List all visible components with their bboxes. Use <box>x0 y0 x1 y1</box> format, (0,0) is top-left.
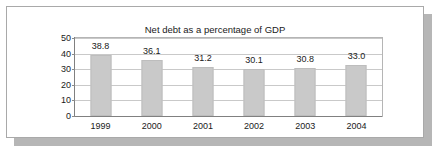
bar-group: 30.82003 <box>280 38 331 116</box>
bar-value-label: 31.2 <box>194 54 212 63</box>
bar-group: 31.22001 <box>177 38 228 116</box>
bar-value-label: 36.1 <box>143 47 161 56</box>
y-axis-tick-label: 0 <box>66 112 71 121</box>
bar <box>192 67 213 116</box>
x-axis-tick-label: 2001 <box>193 122 213 131</box>
plot-area: 50403020100 38.8199936.1200031.2200130.1… <box>74 37 383 117</box>
chart-screenshot: Net debt as a percentage of GDP 50403020… <box>0 0 438 160</box>
bar <box>244 69 265 116</box>
bar-series: 38.8199936.1200031.2200130.1200230.82003… <box>75 38 382 116</box>
bar-value-label: 33.0 <box>348 52 366 61</box>
bar-group: 33.02004 <box>331 38 382 116</box>
bar <box>295 68 316 116</box>
x-axis-tick-label: 1999 <box>91 122 111 131</box>
y-axis-tick-label: 20 <box>61 80 71 89</box>
y-axis-tick-label: 50 <box>61 34 71 43</box>
x-axis-baseline <box>75 116 382 117</box>
bar-value-label: 30.8 <box>296 55 314 64</box>
bar-value-label: 30.1 <box>245 56 263 65</box>
x-axis-tick-label: 2004 <box>346 122 366 131</box>
x-axis-tick-label: 2002 <box>244 122 264 131</box>
bar <box>141 60 162 116</box>
x-axis-tick-label: 2003 <box>295 122 315 131</box>
y-axis-tick-label: 10 <box>61 96 71 105</box>
bar-value-label: 38.8 <box>92 42 110 51</box>
y-axis-tick-mark <box>72 116 75 117</box>
bar-group: 36.12000 <box>126 38 177 116</box>
x-axis-tick-label: 2000 <box>142 122 162 131</box>
y-axis-tick-label: 40 <box>61 49 71 58</box>
bar <box>346 65 367 116</box>
bar <box>90 55 111 116</box>
bar-group: 30.12002 <box>229 38 280 116</box>
bar-group: 38.81999 <box>75 38 126 116</box>
chart-panel: Net debt as a percentage of GDP 50403020… <box>6 6 424 138</box>
y-axis-tick-label: 30 <box>61 65 71 74</box>
